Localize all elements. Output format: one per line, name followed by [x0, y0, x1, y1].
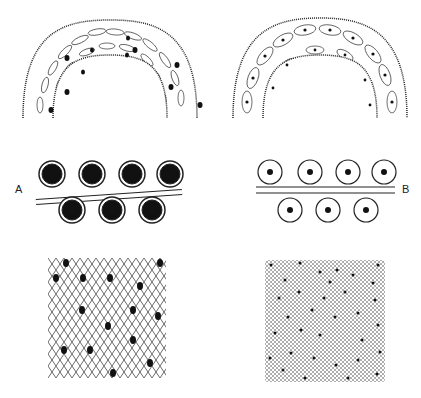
loops-a: [30, 150, 190, 225]
loops-b: [250, 150, 400, 225]
label-a: A: [15, 183, 22, 195]
arch-left: [15, 10, 205, 120]
mesh-left: [48, 258, 166, 378]
arch-right: [225, 10, 415, 120]
label-b: B: [402, 183, 409, 195]
loop-bottom: [59, 197, 165, 223]
mesh-right: [265, 260, 385, 382]
loop-top: [39, 161, 183, 187]
